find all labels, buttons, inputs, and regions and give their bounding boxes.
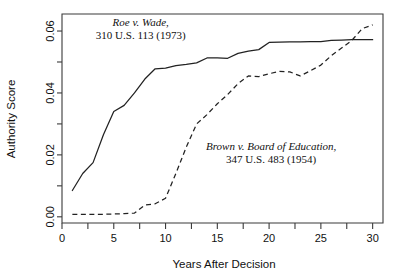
x-tick-label: 20 [263, 232, 275, 244]
roe-v-wade-label-citation: 310 U.S. 113 (1973) [96, 29, 186, 42]
x-tick-label: 25 [315, 232, 327, 244]
y-tick-label: 0.04 [44, 82, 56, 103]
x-tick-label: 30 [367, 232, 379, 244]
y-tick-label: 0.06 [44, 20, 56, 41]
brown-v-board-label-citation: 347 U.S. 483 (1954) [226, 153, 316, 166]
roe-v-wade-label-case: Roe v. Wade, [112, 16, 169, 28]
y-tick-label: 0.00 [44, 206, 56, 227]
x-tick-label: 0 [59, 232, 65, 244]
brown-v-board-label-case: Brown v. Board of Education, [206, 140, 337, 152]
y-tick-label: 0.02 [44, 144, 56, 165]
chart-canvas: 0.000.020.040.06 051015202530 Roe v. Wad… [0, 0, 404, 277]
x-tick-label: 10 [159, 232, 171, 244]
authority-score-line-chart: 0.000.020.040.06 051015202530 Roe v. Wad… [0, 0, 404, 277]
x-axis-title: Years After Decision [172, 258, 275, 270]
y-axis-title: Authority Score [5, 80, 17, 159]
x-tick-label: 15 [211, 232, 223, 244]
x-tick-label: 5 [111, 232, 117, 244]
